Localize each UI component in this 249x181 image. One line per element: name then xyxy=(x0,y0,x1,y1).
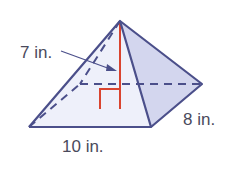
slant-height-label: 7 in. xyxy=(20,43,52,62)
base-width-label: 8 in. xyxy=(183,110,215,129)
pyramid-diagram: 7 in. 10 in. 8 in. xyxy=(0,0,249,181)
base-length-label: 10 in. xyxy=(62,137,104,156)
